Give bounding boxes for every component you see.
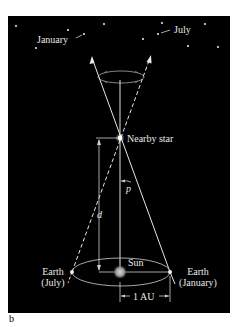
earth-july-label: Earth (July) xyxy=(38,266,68,288)
earth-january-label: Earth (January) xyxy=(176,266,220,288)
figure-panel-label: b xyxy=(9,313,14,324)
july-pointer xyxy=(161,30,170,33)
earth-january xyxy=(168,270,172,274)
sightline-january xyxy=(92,58,170,272)
january-label: January xyxy=(37,34,68,45)
earth-july xyxy=(70,270,74,274)
sightline-july xyxy=(72,58,150,272)
arrowhead-july xyxy=(147,55,152,64)
sun-label: Sun xyxy=(128,257,144,268)
au-scale-label: 1 AU xyxy=(133,291,154,302)
sun xyxy=(113,265,127,279)
parallax-angle-label: p xyxy=(126,183,131,194)
distance-label: d xyxy=(97,209,102,220)
arrowhead-january xyxy=(90,56,95,64)
july-label: July xyxy=(174,24,191,35)
january-pointer xyxy=(76,35,82,38)
nearby-star-label: Nearby star xyxy=(127,133,173,144)
